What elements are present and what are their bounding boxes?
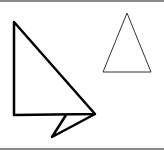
large-right-triangle — [14, 22, 95, 115]
diagram-canvas — [0, 0, 164, 153]
small-isosceles-triangle — [103, 13, 151, 72]
shapes-svg — [0, 0, 164, 153]
triangle-tail — [52, 114, 95, 137]
